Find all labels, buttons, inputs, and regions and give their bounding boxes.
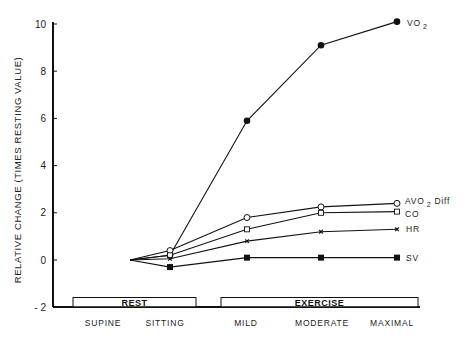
y-tick-label: 4 <box>40 160 46 171</box>
y-axis-label: RELATIVE CHANGE (TIMES RESTING VALUE) <box>12 57 23 284</box>
x-category-label: MILD <box>234 318 258 328</box>
x-category-label: SITTING <box>145 318 184 328</box>
series-vo2: VO2 <box>130 18 428 260</box>
series-label: HR <box>406 224 420 234</box>
series-label: VO2 <box>407 18 428 30</box>
series-hr: HR <box>130 224 420 260</box>
chart-canvas: 1086420- 2RELATIVE CHANGE (TIMES RESTING… <box>0 0 472 343</box>
y-tick-label: 6 <box>40 113 46 124</box>
series-avo2-diff: AVO2Diff <box>130 196 450 260</box>
y-tick-label: 2 <box>40 207 46 218</box>
y-tick-label: - 2 <box>34 302 46 313</box>
y-tick-label: 10 <box>35 19 47 30</box>
series-label: AVO2Diff <box>405 196 450 208</box>
y-tick-label: 0 <box>40 255 46 266</box>
series-label: CO <box>405 209 419 219</box>
x-category-label: MAXIMAL <box>370 318 414 328</box>
y-tick-label: 8 <box>40 66 46 77</box>
series-sv: SV <box>130 253 419 270</box>
series-label: SV <box>406 253 419 263</box>
x-category-label: MODERATE <box>295 318 349 328</box>
axes: 1086420- 2 <box>34 19 420 313</box>
series-co: CO <box>130 209 419 260</box>
x-category-label: SUPINE <box>85 318 121 328</box>
series-line <box>130 22 397 260</box>
